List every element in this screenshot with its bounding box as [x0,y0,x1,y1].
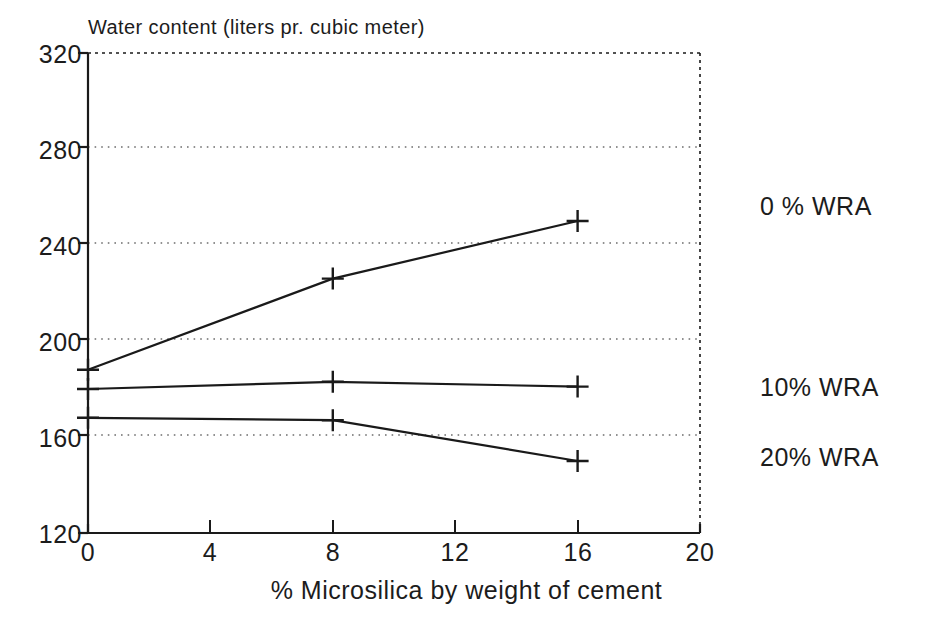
marker-0-wra-x8 [322,268,344,290]
series-20-wra [77,407,589,472]
marker-20-wra-x8 [322,409,344,431]
x-axis-ticks [88,520,700,533]
axis-frame [88,53,700,533]
plot-canvas [0,0,933,636]
grid-lines [88,147,700,435]
axis-lines [88,53,700,533]
series-0-wra [77,210,589,381]
marker-0-wra-x16 [567,210,589,232]
marker-10-wra-x8 [322,371,344,393]
chart-figure: Water content (liters pr. cubic meter) 3… [0,0,933,636]
marker-20-wra-x0 [77,407,99,429]
marker-10-wra-x16 [567,376,589,398]
y-axis-ticks [78,53,88,533]
data-series-layer [77,210,589,472]
marker-10-wra-x0 [77,378,99,400]
series-10-wra [77,371,589,400]
marker-0-wra-x0 [77,359,99,381]
marker-20-wra-x16 [567,450,589,472]
